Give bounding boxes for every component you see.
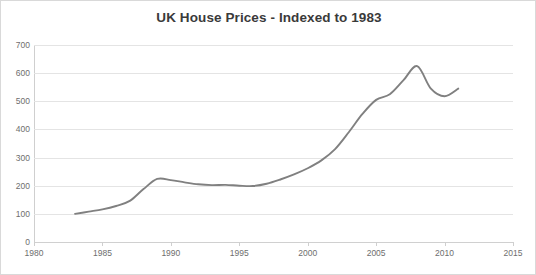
chart-title: UK House Prices - Indexed to 1983 bbox=[1, 10, 536, 25]
x-tick-mark bbox=[445, 242, 446, 246]
x-tick-label: 1985 bbox=[82, 248, 122, 258]
x-tick-mark bbox=[171, 242, 172, 246]
y-tick-label: 700 bbox=[4, 40, 30, 50]
x-tick-label: 2015 bbox=[493, 248, 533, 258]
x-tick-label: 2005 bbox=[356, 248, 396, 258]
y-tick-label: 500 bbox=[4, 96, 30, 106]
y-tick-label: 300 bbox=[4, 153, 30, 163]
y-tick-label: 600 bbox=[4, 68, 30, 78]
x-tick-mark bbox=[239, 242, 240, 246]
chart-container: UK House Prices - Indexed to 1983 700 60… bbox=[0, 0, 536, 275]
x-tick-mark bbox=[308, 242, 309, 246]
plot-area bbox=[34, 45, 513, 242]
x-tick-mark bbox=[102, 242, 103, 246]
x-tick-label: 1980 bbox=[14, 248, 54, 258]
y-tick-label: 0 bbox=[4, 237, 30, 247]
x-tick-label: 2010 bbox=[425, 248, 465, 258]
x-tick-mark bbox=[376, 242, 377, 246]
y-tick-label: 200 bbox=[4, 181, 30, 191]
y-tick-label: 100 bbox=[4, 209, 30, 219]
y-axis-tick-labels: 700 600 500 400 300 200 100 0 bbox=[1, 45, 30, 242]
x-tick-label: 2000 bbox=[288, 248, 328, 258]
x-tick-mark bbox=[34, 242, 35, 246]
series-line-uk-house-prices bbox=[34, 45, 513, 242]
x-tick-label: 1990 bbox=[151, 248, 191, 258]
x-axis: 1980 1985 1990 1995 2000 2005 2010 2015 bbox=[34, 242, 513, 272]
y-tick-label: 400 bbox=[4, 124, 30, 134]
x-tick-mark bbox=[513, 242, 514, 246]
series-path bbox=[75, 66, 458, 214]
x-tick-label: 1995 bbox=[219, 248, 259, 258]
